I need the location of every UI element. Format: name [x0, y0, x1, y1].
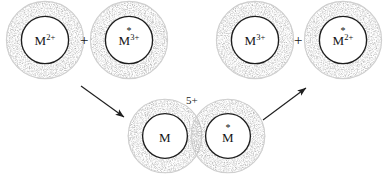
solvation-shell-m2plus-star	[304, 1, 381, 78]
plus-operator-products: +	[294, 33, 302, 48]
solvation-shell-m3plus-star	[90, 1, 167, 78]
plus-operator-reactants: +	[80, 33, 88, 48]
solvation-shell-m-bridge-star	[191, 99, 265, 173]
intermediate-charge-label: 5+	[186, 95, 198, 106]
forward-arrow	[81, 86, 124, 117]
scheme-canvas	[0, 0, 385, 179]
solvation-shell-m3plus	[216, 1, 293, 78]
reaction-scheme-diagram: M2+ + *M3+ M3+ + *M2+ 5+ M *M	[0, 0, 385, 179]
dissociation-arrow	[263, 88, 306, 120]
solvation-shell-m2plus	[6, 1, 83, 78]
